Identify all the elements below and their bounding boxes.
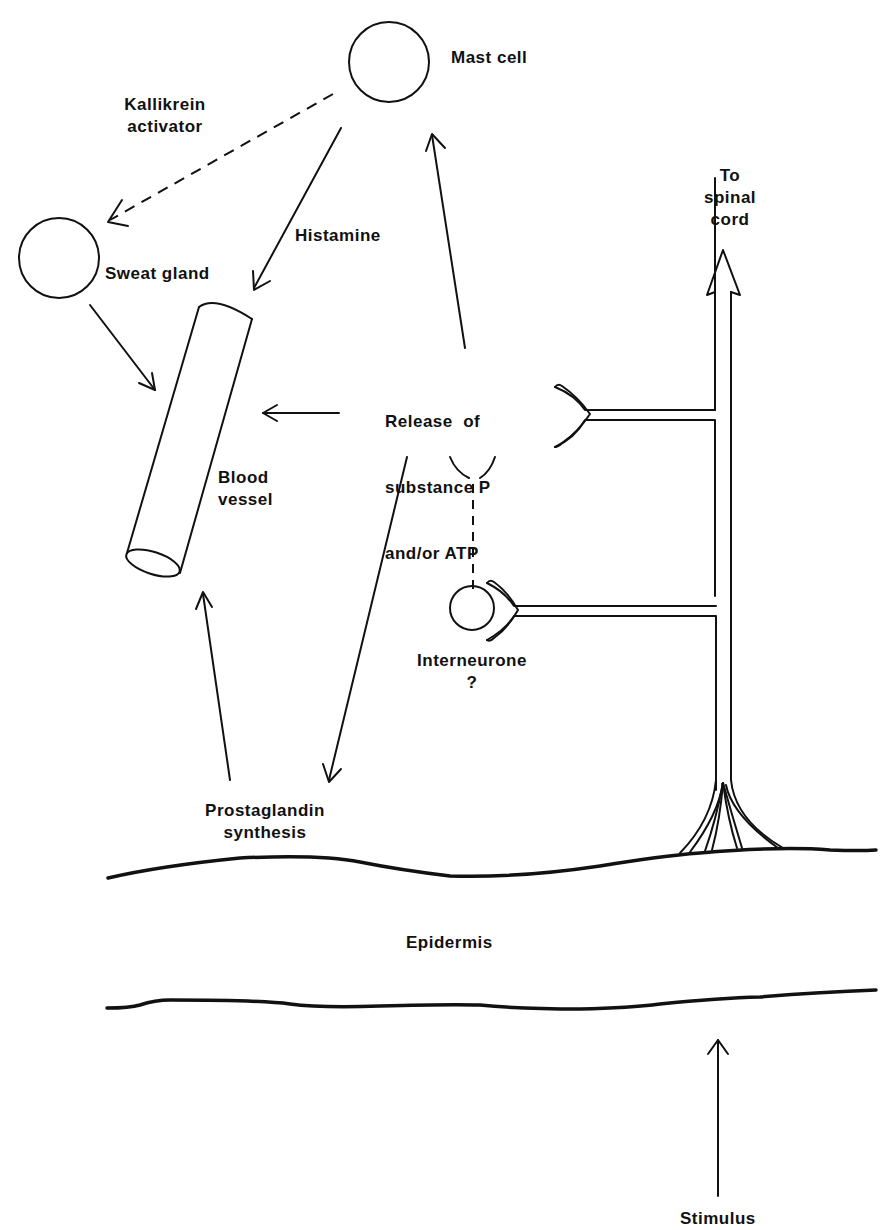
prostaglandin-label: Prostaglandin synthesis — [180, 800, 350, 844]
skin-surface-line — [108, 849, 876, 878]
interneurone-line2: ? — [397, 672, 547, 694]
histamine-label: Histamine — [295, 225, 381, 247]
sweat-gland-to-vessel-arrow — [90, 305, 155, 390]
epidermis-label: Epidermis — [406, 932, 493, 954]
release-substance-label: Release of substance P and/or ATP — [385, 367, 491, 587]
prostaglandin-to-vessel-arrow — [196, 592, 230, 780]
release-line3: and/or ATP — [385, 543, 491, 565]
release-line2: substance P — [385, 477, 491, 499]
histamine-arrow — [253, 128, 341, 290]
kallikrein-activator-label: Kallikrein activator — [105, 94, 225, 138]
mast-cell-label: Mast cell — [451, 47, 527, 69]
release-to-mast-cell-arrow — [426, 134, 465, 348]
sweat-gland-label: Sweat gland — [105, 263, 210, 285]
nerve-endings — [680, 780, 783, 853]
release-to-vessel-arrow — [263, 405, 339, 421]
interneurone-shape — [450, 586, 494, 630]
ascending-axon — [707, 250, 740, 780]
interneurone-label: Interneurone ? — [397, 650, 547, 694]
upper-nerve-terminal — [555, 178, 715, 596]
spinal-cord-label: To spinal cord — [690, 165, 770, 231]
interneurone-line1: Interneurone — [397, 650, 547, 672]
prostaglandin-line2: synthesis — [180, 822, 350, 844]
blood-vessel-line1: Blood — [218, 467, 273, 489]
prostaglandin-line1: Prostaglandin — [180, 800, 350, 822]
blood-vessel-label: Blood vessel — [218, 467, 273, 511]
kallikrein-line1: Kallikrein — [105, 94, 225, 116]
stimulus-label: Stimulus — [680, 1208, 756, 1230]
release-line1: Release of — [385, 411, 491, 433]
mast-cell-shape — [349, 22, 429, 102]
blood-vessel-line2: vessel — [218, 489, 273, 511]
blood-vessel-shape — [123, 303, 252, 582]
spinal-line1: To — [690, 165, 770, 187]
spinal-line3: cord — [690, 209, 770, 231]
spinal-line2: spinal — [690, 187, 770, 209]
sweat-gland-shape — [19, 218, 99, 298]
kallikrein-line2: activator — [105, 116, 225, 138]
epidermis-base-line — [107, 990, 876, 1009]
stimulus-arrow — [708, 1040, 728, 1196]
